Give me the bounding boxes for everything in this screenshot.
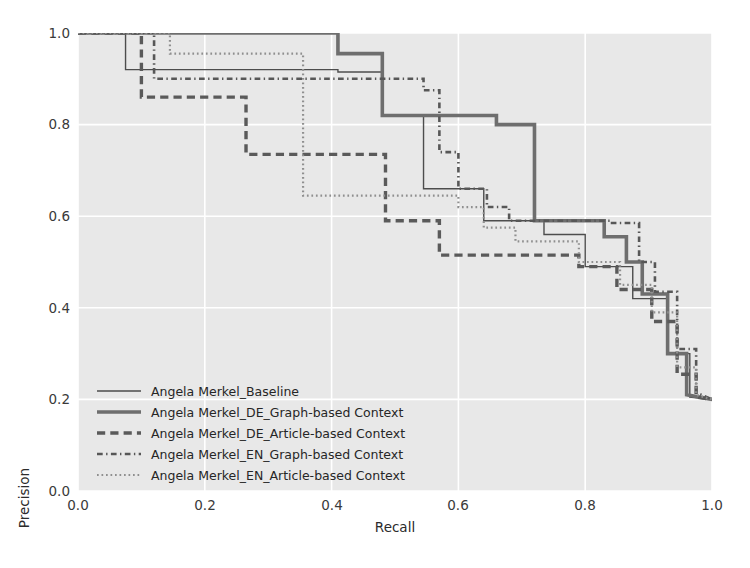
ytick-label: 0.4 — [24, 300, 70, 316]
ytick-label: 0.8 — [24, 116, 70, 132]
legend-label: Angela Merkel_DE_Graph-based Context — [151, 405, 403, 420]
xtick-label: 1.0 — [682, 497, 742, 513]
legend-label: Angela Merkel_EN_Graph-based Context — [151, 447, 403, 462]
legend-label: Angela Merkel_EN_Article-based Context — [151, 468, 405, 483]
xtick-label: 0.0 — [48, 497, 108, 513]
legend-line-swatch — [96, 405, 142, 419]
series-line — [78, 33, 712, 399]
xtick-label: 0.6 — [428, 497, 488, 513]
ytick-label: 1.0 — [24, 25, 70, 41]
legend-item: Angela Merkel_EN_Article-based Context — [96, 465, 405, 485]
y-axis-title: Precision — [16, 468, 32, 528]
legend-label: Angela Merkel_Baseline — [151, 384, 299, 399]
ytick-label: 0.6 — [24, 208, 70, 224]
series-line — [78, 33, 712, 399]
legend: Angela Merkel_Baseline Angela Merkel_DE_… — [96, 381, 405, 485]
series-line — [78, 33, 712, 399]
series-line — [78, 33, 712, 399]
legend-line-swatch — [96, 426, 142, 440]
legend-line-swatch — [96, 468, 142, 482]
legend-item: Angela Merkel_DE_Article-based Context — [96, 423, 405, 443]
legend-item: Angela Merkel_Baseline — [96, 381, 405, 401]
legend-item: Angela Merkel_EN_Graph-based Context — [96, 444, 405, 464]
legend-item: Angela Merkel_DE_Graph-based Context — [96, 402, 405, 422]
xtick-label: 0.4 — [302, 497, 362, 513]
series-line — [78, 33, 712, 399]
x-axis-title: Recall — [375, 519, 415, 535]
legend-label: Angela Merkel_DE_Article-based Context — [151, 426, 405, 441]
legend-line-swatch — [96, 384, 142, 398]
xtick-label: 0.2 — [175, 497, 235, 513]
xtick-label: 0.8 — [555, 497, 615, 513]
precision-recall-figure: 1.0 0.8 0.6 0.4 0.2 0.0 0.0 0.2 0.4 0.6 … — [0, 0, 750, 568]
legend-line-swatch — [96, 447, 142, 461]
ytick-label: 0.2 — [24, 391, 70, 407]
